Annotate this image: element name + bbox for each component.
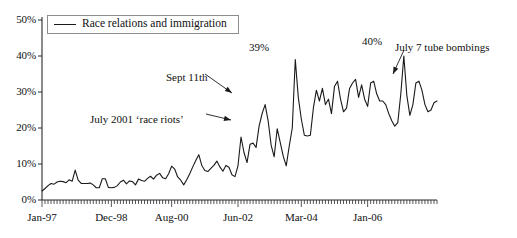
- annotation-july-2001-race-riots: July 2001 ‘race riots’: [90, 114, 184, 125]
- x-axis-tick-label: Mar-04: [271, 211, 331, 223]
- legend-item-label: Race relations and immigration: [82, 18, 227, 30]
- legend-line-swatch: [54, 24, 76, 25]
- annotation-arrow-head: [393, 67, 398, 74]
- x-axis-tick-label: Jan-06: [338, 211, 398, 223]
- x-axis-tick-label: Aug-00: [142, 211, 202, 223]
- point-label-peak-40: 40%: [362, 36, 382, 47]
- y-axis-tick-label: 20%: [0, 121, 36, 133]
- y-axis-tick-label: 30%: [0, 85, 36, 97]
- x-axis-tick-label: Jun-02: [208, 211, 268, 223]
- x-axis-tick-label: Jan-97: [12, 211, 72, 223]
- point-label-peak-39: 39%: [249, 42, 269, 53]
- chart-plot-area: [0, 0, 517, 238]
- chart-legend[interactable]: Race relations and immigration: [47, 15, 239, 34]
- annotation-july-7-tube-bombings: July 7 tube bombings: [395, 42, 489, 53]
- y-axis-tick-label: 10%: [0, 157, 36, 169]
- annotation-arrow-head: [225, 87, 232, 93]
- annotation-sept-11th: Sept 11th: [166, 72, 207, 83]
- y-axis-tick-label: 0%: [0, 193, 36, 205]
- y-axis-tick-label: 40%: [0, 49, 36, 61]
- chart-container: Race relations and immigration 50%40%30%…: [0, 0, 517, 238]
- y-axis-tick-label: 50%: [0, 13, 36, 25]
- x-axis-tick-label: Dec-98: [81, 211, 141, 223]
